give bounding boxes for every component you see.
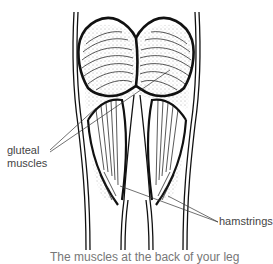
figure-caption: The muscles at the back of your leg <box>50 250 239 264</box>
hamstring-fibers <box>96 100 178 200</box>
hamstrings-label: hamstrings <box>219 215 273 228</box>
gluteal-muscles-label: gluteal muscles <box>7 144 57 170</box>
